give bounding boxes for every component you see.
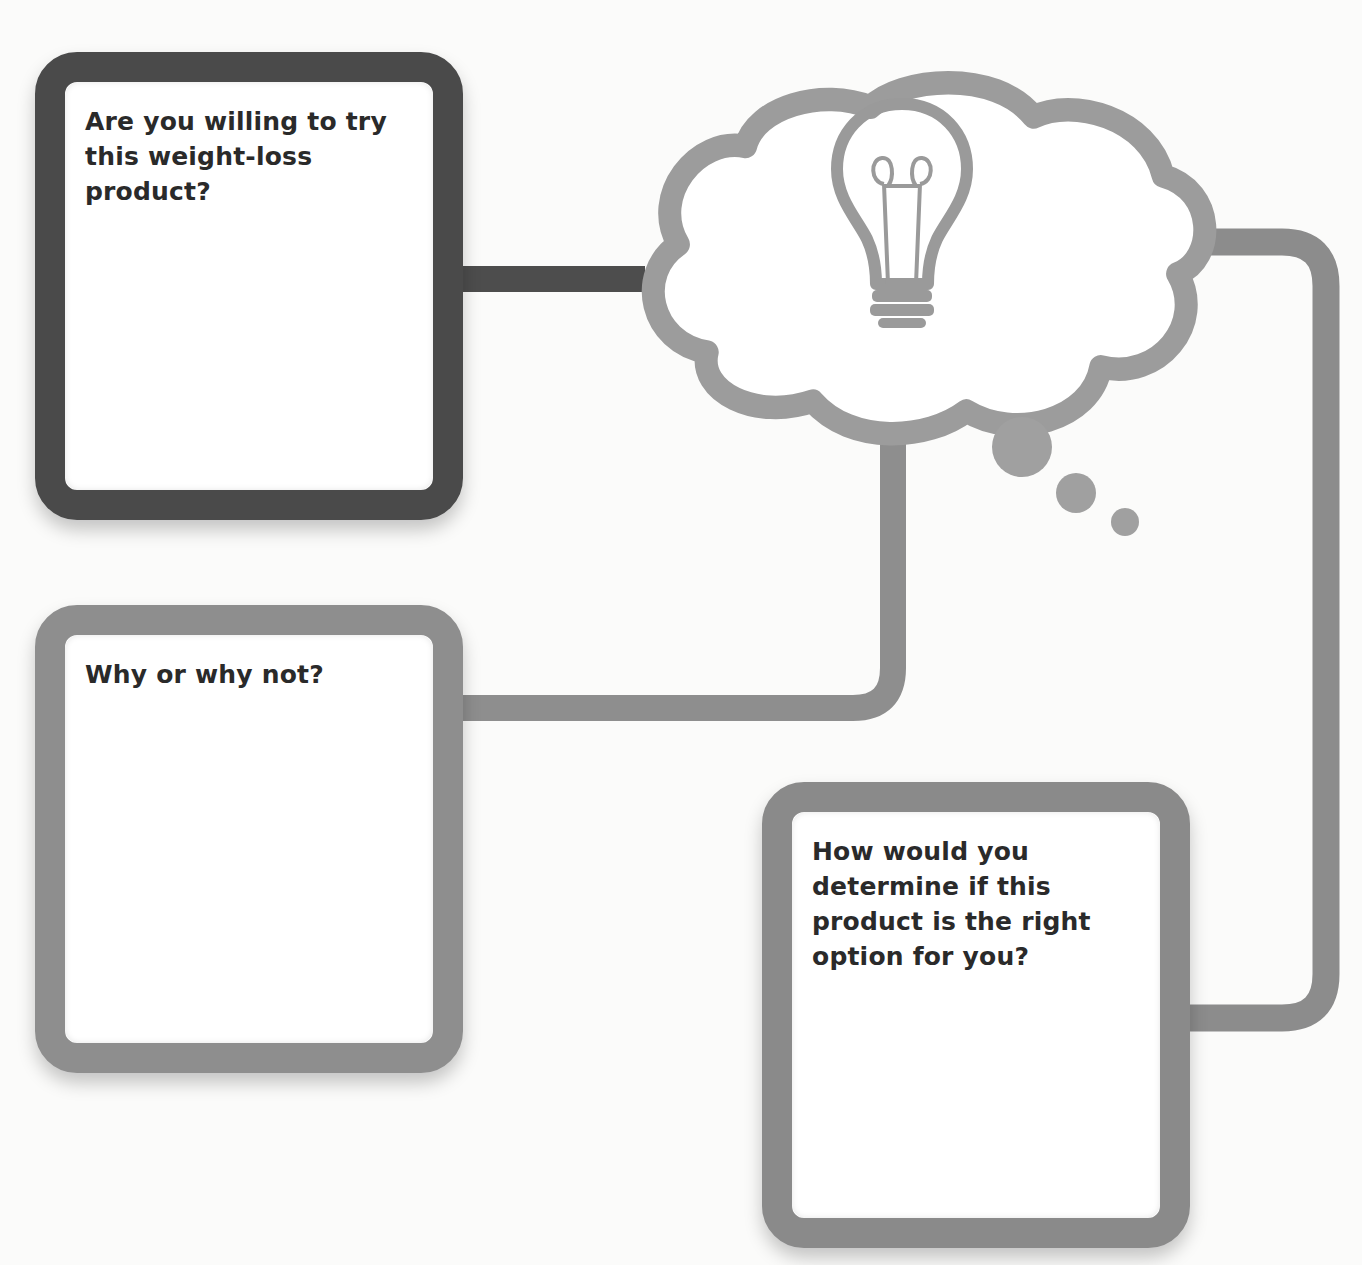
answer-area[interactable] — [77, 715, 421, 1031]
question-text: How would you determine if this product … — [812, 834, 1140, 974]
thought-cloud — [620, 56, 1220, 556]
thought-bubble-large — [992, 417, 1052, 477]
question-text: Are you willing to try this weight-loss … — [85, 104, 413, 209]
question-box-why: Why or why not? — [35, 605, 463, 1073]
question-box-determine: How would you determine if this product … — [762, 782, 1190, 1248]
question-box-willing: Are you willing to try this weight-loss … — [35, 52, 463, 520]
thought-bubble-medium — [1056, 473, 1096, 513]
connector-box1-cloud — [455, 266, 645, 292]
answer-area[interactable] — [77, 222, 421, 478]
thought-bubble-small — [1111, 508, 1139, 536]
question-text: Why or why not? — [85, 657, 413, 692]
answer-area[interactable] — [804, 1002, 1148, 1206]
